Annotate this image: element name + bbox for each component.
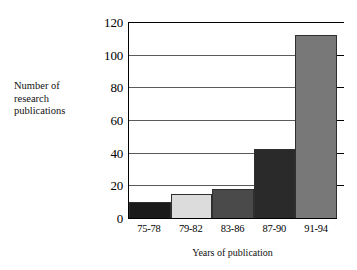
plot-area: 020406080100120	[128, 22, 337, 219]
y-tick-label-60: 60	[110, 114, 123, 127]
bar-chart-figure: Number of research publications 02040608…	[0, 0, 357, 270]
x-tick-label-79-82: 79-82	[170, 222, 212, 235]
y-axis-title: Number of research publications	[14, 80, 100, 118]
right-tick-80	[337, 87, 344, 88]
x-tick-label-75-78: 75-78	[128, 222, 170, 235]
bar-75-78	[129, 202, 171, 218]
bar-79-82	[171, 194, 213, 219]
bar-series	[129, 22, 337, 218]
y-tick-label-0: 0	[117, 212, 123, 225]
y-tick-label-80: 80	[110, 81, 123, 94]
right-tick-120	[337, 22, 344, 23]
x-axis-tick-labels: 75-7879-8283-8687-9091-94	[128, 222, 337, 235]
x-axis-title: Years of publication	[128, 247, 337, 259]
y-tick-label-20: 20	[110, 179, 123, 192]
y-tick-label-100: 100	[104, 48, 123, 61]
right-tick-40	[337, 153, 344, 154]
y-tick-label-120: 120	[104, 16, 123, 29]
bar-83-86	[212, 189, 254, 218]
bar-87-90	[254, 149, 296, 218]
x-tick-label-87-90: 87-90	[253, 222, 295, 235]
x-tick-label-83-86: 83-86	[212, 222, 254, 235]
right-tick-60	[337, 120, 344, 121]
right-tick-20	[337, 185, 344, 186]
right-tick-100	[337, 55, 344, 56]
x-tick-label-91-94: 91-94	[295, 222, 337, 235]
y-tick-label-40: 40	[110, 146, 123, 159]
bar-91-94	[295, 35, 337, 218]
